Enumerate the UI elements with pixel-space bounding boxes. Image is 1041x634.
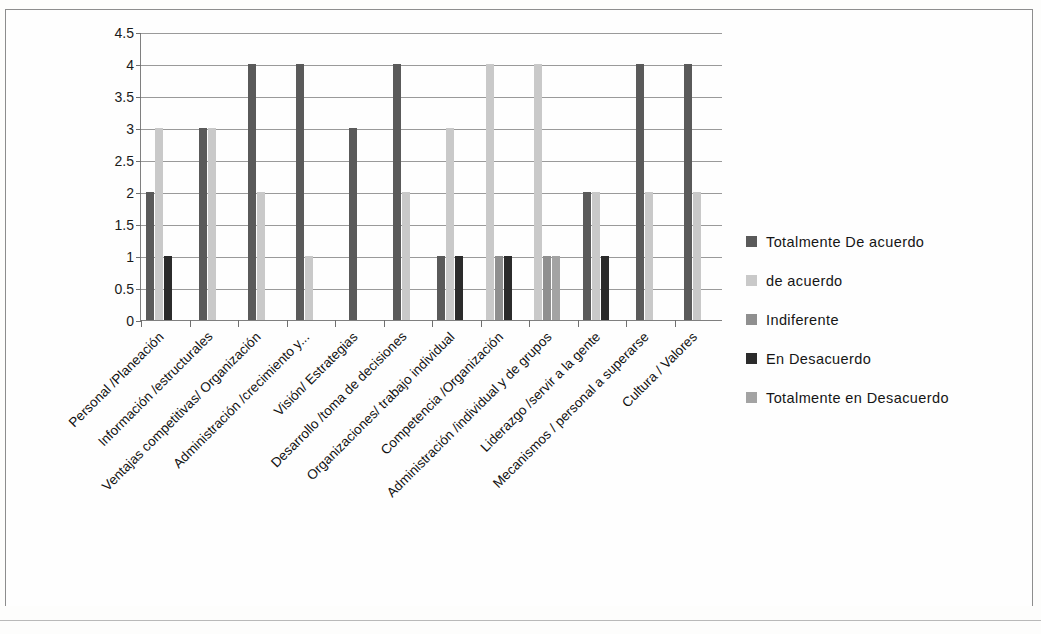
bar [164,256,172,320]
bar [693,192,701,320]
bar [504,256,512,320]
y-axis-tick-label: 1 [92,250,134,264]
bar [437,256,445,320]
bar [455,256,463,320]
bar [208,128,216,320]
legend-swatch-icon [746,314,757,325]
legend-item: de acuerdo [746,261,1036,300]
bar [543,256,551,320]
y-axis-labels: 4.543.532.521.510.50 [88,33,134,321]
bar [636,64,644,320]
bar [349,128,357,320]
legend-item-label: Indiferente [766,312,839,328]
y-axis-tick [136,129,141,130]
legend-item: Totalmente De acuerdo [746,222,1036,261]
legend-swatch-icon [746,353,757,364]
chart-plot-area [140,33,722,321]
y-axis-tick-label: 3 [92,122,134,136]
bar [684,64,692,320]
legend-item-label: de acuerdo [766,273,843,289]
bar [534,64,542,320]
y-axis-tick [136,225,141,226]
y-axis-tick-label: 2.5 [92,154,134,168]
y-axis-tick-label: 1.5 [92,218,134,232]
legend-item: En Desacuerdo [746,339,1036,378]
bar [446,128,454,320]
y-axis-tick [136,65,141,66]
y-axis-tick-label: 4 [92,58,134,72]
bar [486,64,494,320]
bar [601,256,609,320]
y-axis-tick [136,97,141,98]
bar [592,192,600,320]
legend-item-label: Totalmente De acuerdo [766,234,924,250]
legend-swatch-icon [746,392,757,403]
legend-swatch-icon [746,275,757,286]
bar [257,192,265,320]
bar [583,192,591,320]
legend-item-label: Totalmente en Desacuerdo [766,390,949,406]
y-axis-tick-label: 4.5 [92,26,134,40]
y-axis-tick [136,257,141,258]
bar [645,192,653,320]
y-axis-tick [136,161,141,162]
y-axis-tick-label: 3.5 [92,90,134,104]
legend-swatch-icon [746,236,757,247]
legend-item: Totalmente en Desacuerdo [746,378,1036,417]
legend-item: Indiferente [746,300,1036,339]
legend-item-label: En Desacuerdo [766,351,871,367]
y-axis-tick [136,33,141,34]
bar [552,256,560,320]
bar [146,192,154,320]
y-axis-tick-label: 2 [92,186,134,200]
bar [393,64,401,320]
x-axis-category-labels: Personal /PlaneaciónInformación /estruct… [0,321,740,621]
bar [296,64,304,320]
bar [155,128,163,320]
chart-legend: Totalmente De acuerdo de acuerdoIndifere… [746,222,1036,417]
gridline [141,33,722,34]
bar [402,192,410,320]
bar [495,256,503,320]
y-axis-tick [136,193,141,194]
bar [199,128,207,320]
y-axis-tick-label: 0.5 [92,282,134,296]
x-axis-category-label: Visión/ Estrategias [271,329,360,418]
x-axis-category-label: Personal /Planeación [66,329,167,430]
y-axis-tick [136,289,141,290]
bar [248,64,256,320]
bar [305,256,313,320]
